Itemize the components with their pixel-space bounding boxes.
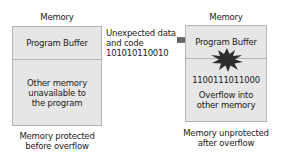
- overflow-label: Overflow into other memory: [186, 88, 266, 112]
- left-caption-line-2: before overflow: [8, 141, 106, 151]
- right-memory-block: Program Buffer 1100111011000 Overflow in…: [185, 25, 267, 122]
- input-line-3: 101010110010: [106, 48, 176, 58]
- left-memory-title: Memory: [12, 12, 102, 22]
- right-caption: Memory unprotected after overflow: [178, 128, 274, 148]
- overflow-line-1: Overflow into: [199, 90, 253, 100]
- input-line-2: and code: [106, 38, 176, 48]
- left-other-line-2: unavailable to: [28, 88, 86, 98]
- right-memory-title: Memory: [185, 12, 267, 22]
- left-memory-block: Program Buffer Other memory unavailable …: [12, 26, 102, 126]
- explosion-burst-icon: [211, 48, 243, 72]
- overflow-bits: 1100111011000: [186, 74, 266, 86]
- left-program-buffer: Program Buffer: [13, 27, 101, 59]
- input-line-1: Unexpected data: [106, 28, 176, 38]
- right-caption-line-2: after overflow: [178, 138, 274, 148]
- left-other-memory: Other memory unavailable to the program: [13, 60, 101, 125]
- left-other-line-3: the program: [32, 98, 83, 108]
- right-caption-line-1: Memory unprotected: [178, 128, 274, 138]
- unexpected-input-label: Unexpected data and code 101010110010: [106, 28, 176, 58]
- left-other-line-1: Other memory: [27, 78, 87, 88]
- left-caption-line-1: Memory protected: [8, 131, 106, 141]
- overflow-line-2: other memory: [197, 100, 255, 110]
- left-caption: Memory protected before overflow: [8, 131, 106, 151]
